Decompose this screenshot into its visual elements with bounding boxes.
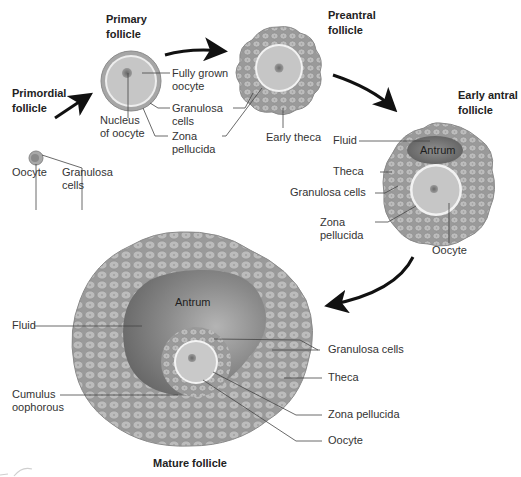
title-mature-follicle: Mature follicle: [153, 456, 227, 471]
early-antral-follicle-graphic: [359, 123, 495, 246]
label-early-antral-fluid: Fluid: [333, 134, 357, 147]
label-early-antral-antrum: Antrum: [420, 144, 455, 156]
label-early-antral-zona-pellucida: Zonapellucida: [320, 216, 363, 242]
title-preantral-follicle: Preantralfollicle: [328, 8, 376, 38]
label-mature-antrum: Antrum: [175, 296, 210, 308]
title-primordial-follicle: Primordialfollicle: [12, 86, 66, 116]
arrow-preantral-to-early-antral: [333, 75, 393, 108]
diagram-artwork: [0, 0, 521, 477]
title-early-antral-follicle: Early antralfollicle: [458, 88, 518, 118]
label-primordial-granulosa-cells: Granulosacells: [62, 166, 113, 192]
follicle-development-diagram: Primordialfollicle Primaryfollicle Prean…: [0, 0, 521, 477]
label-mature-granulosa-cells: Granulosa cells: [328, 343, 404, 356]
label-early-antral-theca: Theca: [333, 165, 364, 178]
label-mature-theca: Theca: [328, 371, 359, 384]
label-mature-fluid: Fluid: [12, 319, 36, 332]
arrow-early-antral-to-mature: [330, 257, 413, 305]
label-cumulus-oophorous: Cumulusoophorous: [12, 388, 64, 414]
label-early-theca: Early theca: [266, 131, 321, 144]
preantral-follicle-graphic: [222, 27, 321, 136]
arrow-primary-to-preantral: [165, 50, 222, 55]
label-mature-zona-pellucida: Zona pellucida: [328, 408, 400, 421]
label-nucleus-of-oocyte: Nucleusof oocyte: [100, 114, 145, 140]
label-early-antral-oocyte: Oocyte: [432, 244, 467, 257]
label-primordial-oocyte: Oocyte: [12, 166, 47, 179]
label-fully-grown-oocyte: Fully grownoocyte: [172, 67, 228, 93]
title-primary-follicle: Primaryfollicle: [106, 12, 147, 42]
label-primary-zona-pellucida: Zonapellucida: [172, 130, 215, 156]
scribble-mark: [0, 468, 32, 476]
label-mature-oocyte: Oocyte: [328, 434, 363, 447]
mature-follicle-graphic: [34, 232, 322, 446]
label-early-antral-granulosa-cells: Granulosa cells: [290, 186, 366, 199]
label-primary-granulosa-cells: Granulosacells: [172, 102, 223, 128]
